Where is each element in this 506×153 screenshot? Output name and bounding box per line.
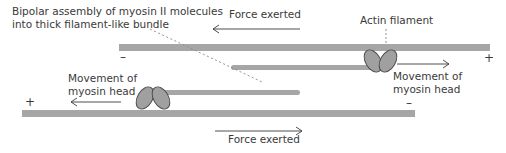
movement-left-line2: myosin head [68, 85, 137, 98]
force-bottom-label: Force exerted [228, 133, 300, 146]
movement-right-line1: Movement of [393, 70, 462, 83]
myosin-bundle-lower-rod [163, 90, 300, 95]
movement-left-line1: Movement of [68, 72, 137, 85]
top-filament-minus-sign: – [120, 51, 126, 63]
bundle-leader-line [150, 29, 262, 82]
top-filament-plus-sign: + [484, 52, 494, 64]
bottom-myosin-head [133, 84, 174, 112]
myosin-bundle-upper-rod [231, 65, 379, 70]
bundle-label-line2: into thick filament-like bundle [12, 18, 223, 31]
bottom-filament-plus-sign: + [25, 96, 35, 108]
bottom-filament-minus-sign: – [406, 97, 412, 109]
top-actin-filament [119, 44, 490, 51]
movement-left-arrow-icon [71, 98, 121, 106]
bundle-label-line1: Bipolar assembly of myosin II molecules [12, 5, 223, 18]
bottom-actin-filament [22, 110, 415, 117]
force-top-label: Force exerted [229, 8, 301, 21]
myosin-actin-diagram: Bipolar assembly of myosin II molecules … [0, 0, 506, 153]
movement-right-arrow-icon [397, 60, 449, 68]
movement-right-label: Movement of myosin head [393, 70, 462, 96]
actin-filament-label: Actin filament [360, 14, 433, 27]
movement-left-label: Movement of myosin head [68, 72, 137, 98]
force-top-arrow-icon [213, 25, 300, 33]
movement-right-line2: myosin head [393, 83, 462, 96]
bundle-label: Bipolar assembly of myosin II molecules … [12, 5, 223, 31]
